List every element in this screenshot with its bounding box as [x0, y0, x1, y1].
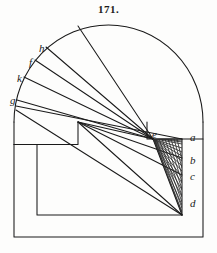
label-d: d	[190, 198, 196, 209]
label-e: e	[152, 129, 157, 140]
label-a: a	[190, 132, 196, 143]
label-b: b	[190, 155, 196, 166]
label-k: k	[17, 73, 22, 84]
label-c: c	[190, 171, 195, 182]
geometry-diagram	[0, 0, 217, 253]
label-h: h	[39, 43, 45, 54]
label-g: g	[10, 95, 16, 106]
sight-ray-top	[78, 26, 153, 139]
sight-ray-h	[46, 47, 153, 139]
sight-ray-to-a	[16, 106, 182, 139]
figure-container: 171.	[0, 0, 217, 253]
arc-chord-group	[46, 26, 78, 47]
left-step-ledge	[14, 122, 78, 145]
label-f: f	[29, 57, 32, 68]
